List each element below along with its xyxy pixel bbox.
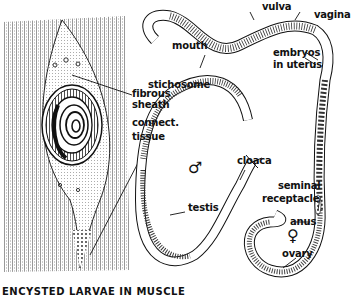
label-ovary: ovary (282, 248, 313, 259)
figure-caption: ENCYSTED LARVAE IN MUSCLE (2, 286, 185, 297)
label-vulva: vulva (262, 1, 291, 12)
label-mouth: mouth (172, 40, 207, 51)
label-cloaca: cloaca (237, 155, 271, 166)
label-embryos: embryos (273, 47, 320, 58)
label-stichosome: stichosome (148, 79, 210, 90)
label-fibrous-sheath-2: sheath (132, 99, 169, 110)
label-in-uterus: in uterus (273, 59, 322, 70)
label-connective-tissue-1: connect. (132, 117, 179, 128)
label-testis: testis (188, 202, 218, 213)
muscle-tissue-illustration (3, 16, 130, 272)
label-vagina: vagina (314, 9, 351, 20)
female-symbol-icon: ♀ (287, 226, 299, 245)
male-symbol-icon: ♂ (188, 158, 202, 177)
label-receptacle: receptacle (262, 193, 319, 204)
label-connective-tissue-2: tissue (132, 131, 165, 142)
label-seminal: seminal (278, 180, 320, 191)
